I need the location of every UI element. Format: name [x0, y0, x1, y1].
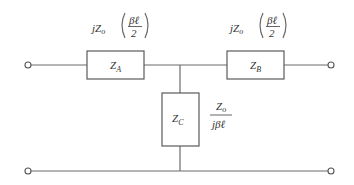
paren-right-icon	[283, 13, 286, 38]
svg-text:2: 2	[131, 27, 137, 39]
paren-left-icon	[260, 13, 263, 38]
paren-right-icon	[145, 13, 148, 38]
zb-value-expression: jZo βℓ 2	[228, 13, 286, 39]
svg-text:jZo: jZo	[228, 22, 243, 36]
terminal-output-bottom-icon	[328, 168, 334, 174]
paren-left-icon	[122, 13, 125, 38]
zc-value-expression: Zo jβℓ	[210, 100, 232, 130]
terminal-input-bottom-icon	[25, 168, 31, 174]
terminal-output-top-icon	[328, 62, 334, 68]
svg-text:jZo: jZo	[90, 22, 105, 36]
svg-text:βℓ: βℓ	[128, 14, 139, 26]
za-value-expression: jZo βℓ 2	[90, 13, 148, 39]
svg-text:jβℓ: jβℓ	[210, 118, 226, 130]
svg-text:2: 2	[269, 27, 275, 39]
terminal-input-top-icon	[25, 62, 31, 68]
t-network-diagram: ZA ZB ZC jZo βℓ 2 jZo βℓ 2 Zo jβℓ	[0, 0, 354, 185]
svg-text:βℓ: βℓ	[266, 14, 277, 26]
svg-text:Zo: Zo	[216, 100, 226, 114]
